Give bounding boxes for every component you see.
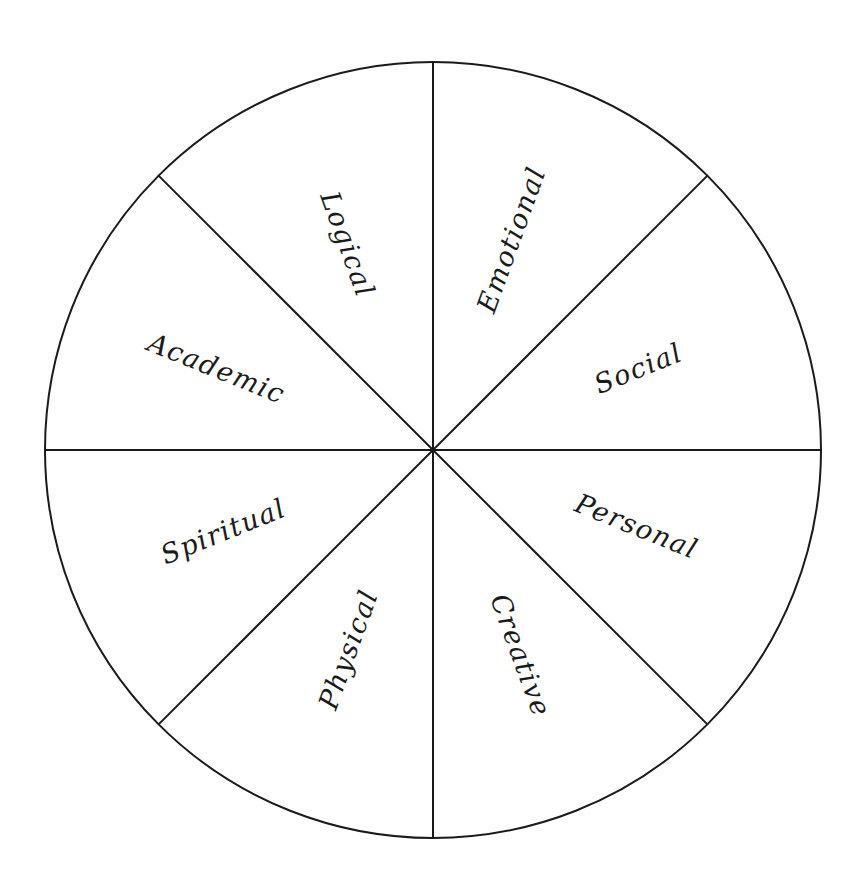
wheel-diagram: Logical Emotional Academic Social Spirit…	[0, 0, 858, 871]
segment-label-academic: Academic	[141, 325, 290, 409]
segment-label-creative: Creative	[484, 590, 557, 721]
segment-label-logical: Logical	[314, 186, 381, 301]
segment-label-physical: Physical	[312, 585, 384, 714]
segment-label-emotional: Emotional	[470, 162, 552, 317]
segment-label-personal: Personal	[570, 487, 703, 565]
segment-label-spiritual: Spiritual	[156, 492, 290, 570]
segment-label-social: Social	[590, 336, 687, 399]
